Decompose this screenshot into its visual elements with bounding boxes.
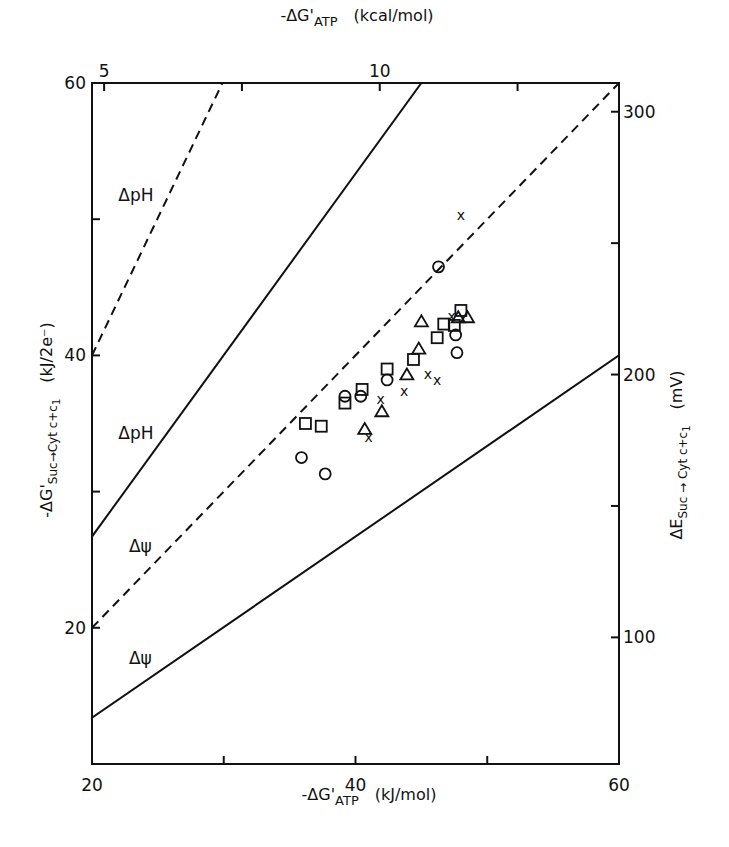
- cross-marker: x: [457, 207, 465, 223]
- plot-border: [92, 83, 619, 764]
- y-tick-label: 40: [64, 345, 86, 365]
- data-markers: xxxxxxx: [296, 207, 474, 479]
- triangle-marker: [400, 368, 413, 379]
- circle-marker: [320, 468, 331, 479]
- x-tick-label: 60: [608, 775, 630, 795]
- line-label: Δψ: [129, 536, 152, 556]
- dashed-line-delta-psi: [92, 83, 619, 628]
- y-tick-label: 60: [64, 73, 86, 93]
- scatter-chart: xxxxxxx ΔpHΔpHΔψΔψ2040602040605101002003…: [0, 0, 729, 847]
- y-axis-title: -ΔG'Suc→Cyt c+c1(kJ/2e⁻): [37, 322, 62, 517]
- circle-marker: [296, 452, 307, 463]
- circle-marker: [451, 347, 462, 358]
- line-label: ΔpH: [118, 185, 153, 205]
- x-tick-label: 40: [345, 775, 367, 795]
- line-label: ΔpH: [118, 423, 153, 443]
- x-tick-label: 20: [81, 775, 103, 795]
- y2-tick-label: 300: [623, 102, 655, 122]
- x2-tick-label: 10: [369, 61, 391, 81]
- y-tick-label: 20: [64, 618, 86, 638]
- cross-marker: x: [424, 366, 432, 382]
- line-label: Δψ: [129, 648, 152, 668]
- square-marker: [300, 418, 311, 429]
- square-marker: [432, 332, 443, 343]
- square-marker: [382, 364, 393, 375]
- dashed-line-delta-ph: [92, 83, 222, 355]
- plot-frame: [92, 83, 619, 764]
- y2-axis-title: ΔESuc → Cyt c+c1(mV): [667, 370, 692, 539]
- square-marker: [408, 354, 419, 365]
- circle-marker: [382, 374, 393, 385]
- solid-line-delta-psi: [92, 355, 619, 717]
- cross-marker: x: [400, 383, 408, 399]
- y2-tick-label: 200: [623, 365, 655, 385]
- triangle-marker: [415, 315, 428, 326]
- x-axis-title: -ΔG'ATP(kJ/mol): [302, 785, 437, 808]
- circle-marker: [339, 391, 350, 402]
- x2-axis-title: -ΔG'ATP(kcal/mol): [280, 6, 433, 29]
- reference-lines: [92, 83, 619, 718]
- square-marker: [316, 421, 327, 432]
- y2-tick-label: 100: [623, 627, 655, 647]
- triangle-marker: [412, 343, 425, 354]
- cross-marker: x: [448, 308, 456, 324]
- cross-marker: x: [376, 391, 384, 407]
- x2-tick-label: 5: [99, 61, 110, 81]
- cross-marker: x: [433, 372, 441, 388]
- solid-line-delta-ph: [92, 83, 421, 537]
- cross-marker: x: [365, 429, 373, 445]
